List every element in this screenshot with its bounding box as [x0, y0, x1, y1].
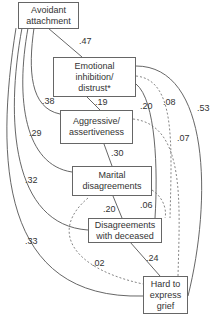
coef-aggressive-marital: .30: [111, 148, 124, 158]
coef-emotional-aggressive: .19: [95, 97, 108, 107]
coef-dashed-06: .06: [140, 200, 153, 210]
node-avoidant-attachment: Avoidant attachment: [18, 2, 79, 29]
coef-dashed-08: .08: [163, 97, 176, 107]
coef-avoidant-disagreements: .32: [25, 175, 38, 185]
coef-disagreements-grief: .24: [146, 253, 159, 263]
coef-emotional-grief: .53: [197, 103, 210, 113]
coef-avoidant-emotional: .47: [79, 36, 92, 46]
node-marital-disagreements: Marital disagreements: [72, 166, 152, 196]
coef-dashed-07: .07: [177, 133, 190, 143]
path-diagram-edges: [0, 0, 211, 319]
coef-emotional-disagreements: .20: [140, 101, 153, 111]
node-emotional-inhibition: Emotional inhibition/ distrust*: [53, 57, 136, 97]
coef-avoidant-marital: .29: [29, 128, 42, 138]
edge-dashed-06: [152, 190, 166, 218]
node-hard-to-express-grief: Hard to express grief: [143, 276, 188, 314]
node-disagreements-deceased: Disagreements with deceased: [88, 218, 162, 243]
coef-avoidant-aggressive: .38: [42, 96, 55, 106]
coef-avoidant-grief: .33: [25, 236, 38, 246]
node-aggressive-assertiveness: Aggressive/ assertiveness: [60, 110, 133, 144]
coef-marital-disagreements: .20: [103, 204, 116, 214]
coef-dashed-02: .02: [92, 258, 105, 268]
edge-avoidant-emotional: [48, 28, 82, 57]
